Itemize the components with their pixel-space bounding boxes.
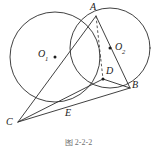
center-label-o1: O1	[38, 49, 48, 62]
segment-cb	[18, 88, 130, 122]
center-dot-o1	[54, 56, 57, 59]
segment-ad-dashed	[96, 16, 103, 79]
center-dot-o2	[109, 47, 112, 50]
point-label-b: B	[132, 80, 138, 90]
figure-caption: 图 2-2-2	[0, 139, 157, 146]
segment-ca	[18, 16, 96, 122]
point-label-a: A	[90, 2, 96, 12]
center-label-o2-subscript: 2	[122, 48, 125, 55]
center-label-o2: O2	[115, 42, 125, 55]
point-label-c: C	[6, 117, 13, 127]
center-label-o1-subscript: 1	[45, 55, 48, 62]
point-label-e: E	[65, 108, 71, 118]
geometry-figure: A B C D E O1 O2 图 2-2-2	[0, 0, 157, 146]
geometry-canvas	[0, 0, 157, 146]
vertex-dot-d	[102, 78, 105, 81]
point-label-d: D	[106, 66, 113, 76]
